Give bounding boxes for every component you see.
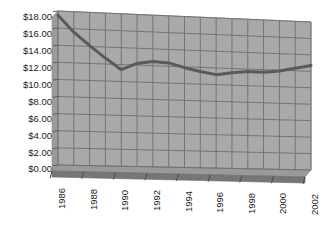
x-axis-tick-label: 1986 — [56, 188, 67, 209]
x-axis-tick-label: 1994 — [183, 191, 194, 212]
x-axis-tick-label: 1996 — [214, 192, 225, 213]
x-axis-tick-label: 1988 — [88, 189, 99, 210]
line-chart: $18.00 $16.00 $14.00 $12.00 $10.00 $8.00… — [0, 0, 331, 235]
left-side-face — [52, 11, 58, 171]
x-axis-tick-label: 1992 — [151, 190, 162, 211]
x-axis-tick-label: 1998 — [246, 192, 257, 213]
x-axis-tick-label: 2002 — [309, 194, 320, 215]
x-axis-tick-label: 1990 — [119, 189, 130, 210]
x-axis-tick-label: 2000 — [277, 193, 288, 214]
